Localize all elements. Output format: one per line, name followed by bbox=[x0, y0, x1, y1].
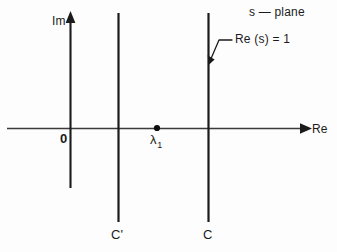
real-axis-arrowhead bbox=[300, 123, 312, 134]
pole-point-lambda1 bbox=[154, 125, 160, 131]
imaginary-axis bbox=[66, 11, 76, 188]
real-axis-label: Re bbox=[312, 123, 328, 135]
contour-label-c-prime: C' bbox=[111, 228, 123, 241]
lambda-subscript: 1 bbox=[157, 140, 162, 150]
origin-label: 0 bbox=[60, 132, 67, 145]
re-s-equals-one-label: Re (s) = 1 bbox=[235, 33, 290, 45]
pole-label-lambda1: λ1 bbox=[150, 133, 162, 150]
s-plane-diagram: s — plane Re (s) = 1 Im Re 0 λ1 C' C bbox=[0, 0, 337, 252]
callout-leader bbox=[208, 40, 232, 65]
imaginary-axis-arrowhead bbox=[66, 11, 76, 23]
lambda-glyph: λ bbox=[150, 132, 157, 147]
callout-leader-path bbox=[210, 40, 232, 61]
contour-label-c: C bbox=[203, 228, 213, 241]
imaginary-axis-label: Im bbox=[52, 15, 66, 27]
s-plane-title: s — plane bbox=[249, 6, 305, 18]
